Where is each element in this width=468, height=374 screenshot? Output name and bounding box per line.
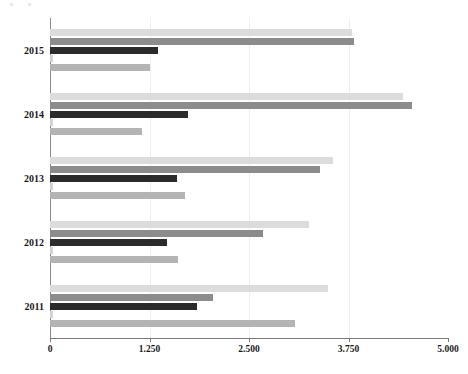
bar [50, 239, 167, 246]
bar [50, 157, 333, 164]
y-axis-tick-label: 2011 [25, 301, 44, 312]
bar [50, 311, 53, 318]
bar [50, 166, 320, 173]
bar [50, 55, 53, 62]
bar [50, 183, 53, 190]
bar [50, 93, 403, 100]
x-axis-tick-label: 3.750 [338, 344, 359, 354]
bar [50, 320, 295, 327]
bar [50, 47, 158, 54]
gridline [349, 18, 350, 338]
bar-chart: 01.2502.5003.7505.000 201520142013201220… [0, 0, 468, 374]
bar [50, 38, 354, 45]
y-axis-tick-label: 2012 [24, 237, 44, 248]
bar [50, 247, 53, 254]
x-axis-tick-label: 5.000 [437, 344, 458, 354]
bar [50, 29, 352, 36]
bar [50, 128, 142, 135]
bar [50, 192, 185, 199]
y-axis-tick-label: 2014 [24, 109, 44, 120]
x-axis-tick [349, 338, 350, 342]
bar [50, 102, 412, 109]
corner-artifact-mark [10, 3, 13, 6]
x-axis-tick [50, 338, 51, 342]
corner-artifact-mark [28, 3, 31, 6]
y-axis-tick-label: 2013 [24, 173, 44, 184]
x-axis-tick-label: 2.500 [238, 344, 259, 354]
bar [50, 294, 213, 301]
x-axis-tick [448, 338, 449, 342]
bar [50, 221, 309, 228]
bar [50, 303, 197, 310]
x-axis-tick [249, 338, 250, 342]
bar [50, 230, 263, 237]
x-axis-tick-label: 1.250 [139, 344, 160, 354]
bar [50, 175, 177, 182]
bar [50, 119, 53, 126]
y-axis-tick-label: 2015 [24, 45, 44, 56]
bar [50, 64, 150, 71]
bar [50, 256, 178, 263]
x-axis-tick [150, 338, 151, 342]
bar [50, 285, 328, 292]
bar [50, 111, 188, 118]
x-axis-tick-label: 0 [48, 344, 53, 354]
